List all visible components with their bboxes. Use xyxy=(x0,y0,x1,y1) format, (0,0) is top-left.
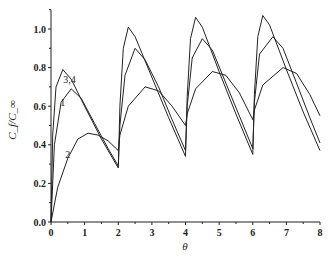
y-tick-label: 1.0 xyxy=(34,24,47,35)
y-axis-title: C_f/C_∞ xyxy=(6,100,18,140)
curve-label: 1 xyxy=(60,97,65,108)
x-tick-label: 2 xyxy=(116,227,121,238)
x-tick-label: 1 xyxy=(82,227,87,238)
y-tick-label: 0.2 xyxy=(34,178,47,189)
x-tick-label: 3 xyxy=(149,227,154,238)
series-line-curve-high xyxy=(51,16,320,223)
y-tick-label: 0.8 xyxy=(34,62,47,73)
y-tick-label: 0.0 xyxy=(34,217,47,228)
series-line-curve-mid xyxy=(51,37,320,222)
x-tick-label: 4 xyxy=(183,227,188,238)
x-tick-label: 7 xyxy=(284,227,289,238)
curves xyxy=(51,16,320,223)
y-tick-label: 0.4 xyxy=(34,139,47,150)
curve-label: 2 xyxy=(65,149,70,160)
x-tick-label: 6 xyxy=(250,227,255,238)
x-tick-label: 8 xyxy=(318,227,323,238)
x-tick-label: 0 xyxy=(49,227,54,238)
curve-label: 3,4 xyxy=(63,74,76,85)
x-tick-label: 5 xyxy=(217,227,222,238)
x-axis-title: θ xyxy=(182,240,188,252)
y-tick-label: 0.6 xyxy=(34,101,47,112)
line-chart: 0123456780.00.20.40.60.81.0 13,42 θ C_f/… xyxy=(0,0,334,263)
